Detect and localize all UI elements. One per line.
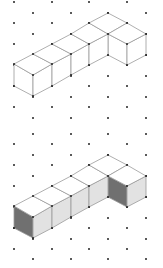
grid-dot — [51, 106, 53, 108]
grid-dot — [70, 238, 72, 240]
cube-vertex-dot — [107, 33, 109, 35]
cube-vertex-dot — [51, 185, 53, 187]
cube-vertex-dot — [107, 54, 109, 56]
cube-vertex-dot — [126, 43, 128, 45]
grid-dot — [145, 217, 147, 219]
grid-dot — [145, 238, 147, 240]
grid-dot — [70, 117, 72, 119]
grid-dot — [126, 1, 128, 3]
grid-dot — [32, 117, 34, 119]
cube-vertex-dot — [70, 175, 72, 177]
cube-vertex-dot — [32, 216, 34, 218]
grid-dot — [13, 164, 15, 166]
cube-vertex-dot — [51, 85, 53, 87]
cube-vertex-dot — [145, 196, 147, 198]
cube-vertex-dot — [88, 185, 90, 187]
grid-dot — [32, 12, 34, 14]
grid-dot — [13, 248, 15, 250]
cube-vertex-dot — [32, 195, 34, 197]
grid-dot — [126, 227, 128, 229]
grid-dot — [32, 258, 34, 260]
grid-dot — [32, 175, 34, 177]
grid-dot — [70, 96, 72, 98]
cube-vertex-dot — [88, 164, 90, 166]
cube-vertex-dot — [145, 54, 147, 56]
cube-vertex-dot — [107, 175, 109, 177]
grid-dot — [51, 143, 53, 145]
cube-vertex-dot — [51, 227, 53, 229]
grid-dot — [70, 154, 72, 156]
grid-dot — [107, 75, 109, 77]
grid-dot — [32, 33, 34, 35]
cube-vertex-dot — [51, 205, 53, 207]
cube-vertex-dot — [88, 22, 90, 24]
grid-dot — [145, 133, 147, 135]
cube-vertex-dot — [13, 227, 15, 229]
grid-dot — [88, 143, 90, 145]
cube-vertex-dot — [32, 237, 34, 239]
cube-vertex-dot — [32, 53, 34, 55]
cube-vertex-dot — [88, 43, 90, 45]
cube-vertex-dot — [70, 195, 72, 197]
grid-dot — [32, 133, 34, 135]
cube-vertex-dot — [32, 95, 34, 97]
grid-dot — [145, 96, 147, 98]
grid-dot — [107, 133, 109, 135]
cube-vertex-dot — [32, 74, 34, 76]
cube-vertex-dot — [107, 12, 109, 14]
cube-vertex-dot — [13, 205, 15, 207]
grid-dot — [13, 43, 15, 45]
cube-vertex-dot — [107, 154, 109, 156]
cube-vertex-dot — [88, 206, 90, 208]
grid-dot — [51, 164, 53, 166]
cube-vertex-dot — [126, 64, 128, 66]
grid-dot — [88, 106, 90, 108]
cube-vertex-dot — [107, 196, 109, 198]
grid-dot — [13, 143, 15, 145]
grid-dot — [107, 117, 109, 119]
cube-vertex-dot — [70, 53, 72, 55]
cube-vertex-dot — [13, 63, 15, 65]
cube-vertex-dot — [126, 185, 128, 187]
grid-dot — [32, 154, 34, 156]
grid-dot — [88, 1, 90, 3]
grid-dot — [70, 258, 72, 260]
cube-vertex-dot — [13, 85, 15, 87]
cube-vertex-dot — [51, 63, 53, 65]
isometric-drawing-canvas — [0, 0, 163, 268]
grid-dot — [145, 75, 147, 77]
grid-dot — [145, 258, 147, 260]
grid-dot — [13, 22, 15, 24]
grid-dot — [126, 106, 128, 108]
grid-dot — [107, 217, 109, 219]
cube-vertex-dot — [145, 175, 147, 177]
grid-dot — [145, 12, 147, 14]
grid-dot — [70, 133, 72, 135]
cube-vertex-dot — [126, 164, 128, 166]
cube-vertex-dot — [126, 22, 128, 24]
grid-dot — [145, 154, 147, 156]
grid-dot — [51, 248, 53, 250]
grid-dot — [145, 117, 147, 119]
grid-dot — [13, 106, 15, 108]
grid-dot — [88, 85, 90, 87]
cube-vertex-dot — [70, 216, 72, 218]
cube-vertex-dot — [145, 33, 147, 35]
grid-dot — [13, 1, 15, 3]
grid-dot — [126, 85, 128, 87]
grid-dot — [88, 227, 90, 229]
grid-dot — [107, 238, 109, 240]
grid-dot — [107, 258, 109, 260]
grid-dot — [51, 1, 53, 3]
grid-dot — [126, 248, 128, 250]
grid-dot — [126, 143, 128, 145]
cube-vertex-dot — [51, 43, 53, 45]
grid-dot — [51, 22, 53, 24]
grid-dot — [88, 248, 90, 250]
cube-vertex-dot — [88, 64, 90, 66]
cube-vertex-dot — [70, 74, 72, 76]
cube-vertex-dot — [126, 206, 128, 208]
grid-dot — [107, 96, 109, 98]
grid-dot — [13, 185, 15, 187]
cube-vertex-dot — [70, 33, 72, 35]
